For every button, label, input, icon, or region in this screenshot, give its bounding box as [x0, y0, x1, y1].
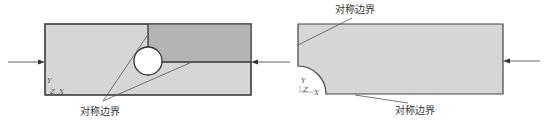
left-axis-x: X — [58, 88, 65, 96]
figure-canvas: Y Z X 对称边界 Y Z X 对称边界 对称边界 — [0, 0, 546, 127]
left-load-arrow — [8, 60, 45, 65]
right-axis-y: Y — [301, 77, 307, 85]
left-model: Y Z X 对称边界 — [8, 24, 290, 117]
right-axis-z: Z — [302, 86, 308, 94]
right-load-arrow-left-model — [251, 60, 290, 65]
right-model: Y Z X 对称边界 对称边界 — [298, 3, 540, 116]
right-symmetry-label-top: 对称边界 — [335, 3, 375, 15]
left-hole — [134, 47, 162, 75]
left-symmetry-label: 对称边界 — [80, 105, 120, 117]
right-model-load-arrow — [503, 59, 540, 64]
right-leader-bottom — [355, 95, 408, 103]
left-axis-z: Z — [49, 88, 55, 96]
right-symmetry-label-bottom: 对称边界 — [395, 104, 435, 116]
right-axis-x: X — [313, 89, 320, 97]
right-plate — [298, 24, 503, 94]
left-dark-quadrant — [148, 24, 251, 62]
